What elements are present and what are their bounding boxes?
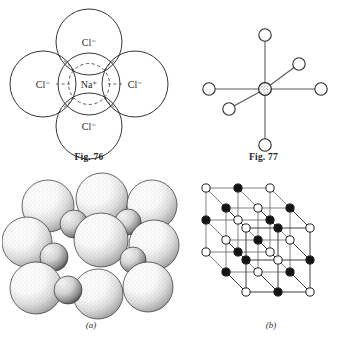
lattice-node-filled — [234, 248, 242, 256]
figure-a-sublabel: (a) — [2, 320, 180, 330]
lattice-node-open — [306, 288, 314, 296]
lattice-node-open — [266, 184, 274, 192]
lattice-node-open — [222, 236, 230, 244]
lattice-node-filled — [286, 268, 294, 276]
lattice-node-filled — [222, 204, 230, 212]
lattice-node-filled — [306, 256, 314, 264]
figure-b-drawing — [200, 180, 342, 320]
ligand-node-up — [259, 29, 271, 41]
ligand-node-front-lower-left — [223, 103, 235, 115]
figure-77-drawing — [186, 2, 341, 170]
chloride-label-top: Cl⁻ — [82, 37, 96, 48]
figure-b — [200, 180, 342, 320]
lattice-node-filled — [222, 268, 230, 276]
figure-76: Cl⁻ Cl⁻ Cl⁻ Cl⁻ Na⁺ — [4, 2, 174, 170]
figure-76-caption: Fig. 76 — [4, 152, 174, 162]
ligand-node-down — [259, 139, 271, 151]
lattice-node-filled — [266, 216, 274, 224]
lattice-node-open — [274, 256, 282, 264]
lattice-node-filled — [274, 224, 282, 232]
lattice-node-open — [202, 248, 210, 256]
lattice-node-filled — [202, 216, 210, 224]
chloride-label-bottom: Cl⁻ — [82, 121, 96, 132]
figure-a-drawing — [2, 172, 180, 322]
lattice-node-open — [306, 224, 314, 232]
figure-plate: Cl⁻ Cl⁻ Cl⁻ Cl⁻ Na⁺ Fig. 76 — [0, 0, 343, 347]
ligand-node-back-upper-right — [293, 58, 305, 70]
figure-76-drawing: Cl⁻ Cl⁻ Cl⁻ Cl⁻ Na⁺ — [4, 2, 174, 170]
ligand-node-left — [203, 83, 215, 95]
lattice-node-open — [286, 236, 294, 244]
packed-spheres — [2, 173, 179, 319]
lattice-node-filled — [274, 288, 282, 296]
chloride-label-left: Cl⁻ — [36, 79, 50, 90]
chloride-label-right: Cl⁻ — [128, 79, 142, 90]
lattice-node-filled — [254, 236, 262, 244]
figure-77 — [186, 2, 341, 170]
lattice-node-open — [202, 184, 210, 192]
ligand-node-right — [315, 83, 327, 95]
sodium-label: Na⁺ — [81, 79, 98, 90]
lattice-node-open — [254, 204, 262, 212]
lattice-node-open — [266, 248, 274, 256]
lattice-node-open — [234, 216, 242, 224]
lattice-node-filled — [234, 184, 242, 192]
figure-77-caption: Fig. 77 — [186, 152, 341, 162]
figure-b-sublabel: (b) — [200, 320, 342, 330]
lattice-node-open — [254, 268, 262, 276]
lattice-node-filled — [242, 256, 250, 264]
lattice-node-open — [242, 288, 250, 296]
figure-a — [2, 172, 180, 322]
lattice-node-filled — [286, 204, 294, 212]
central-node — [259, 83, 272, 96]
lattice-node-open — [242, 224, 250, 232]
